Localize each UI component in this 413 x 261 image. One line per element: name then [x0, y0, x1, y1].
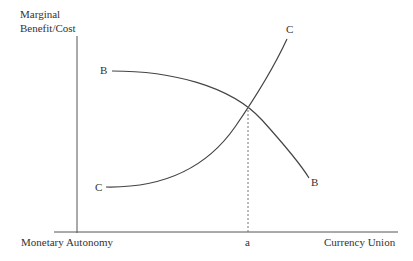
x-axis-right-label: Currency Union [324, 236, 395, 249]
y-axis-label-line1: Marginal [20, 8, 60, 21]
curve-c-end-label: C [286, 23, 293, 36]
curve-b-end-label: B [311, 176, 318, 189]
y-axis-label-line2: Benefit/Cost [20, 22, 76, 35]
curve-b [112, 71, 309, 178]
diagram-canvas [0, 0, 413, 261]
x-axis-left-label: Monetary Autonomy [21, 236, 113, 249]
curve-c [106, 39, 287, 187]
curve-c-start-label: C [95, 181, 102, 194]
x-axis-marker-label: a [245, 236, 250, 249]
curve-b-start-label: B [100, 64, 107, 77]
